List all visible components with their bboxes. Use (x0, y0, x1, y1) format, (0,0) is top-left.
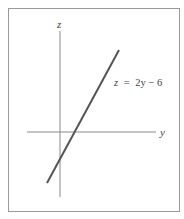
equation-lhs: z (113, 77, 118, 88)
equation-equals: = (124, 77, 130, 88)
graph-line (47, 50, 119, 183)
plot-canvas: z y z = 2y − 6 (0, 0, 184, 219)
y-axis-label: y (159, 126, 165, 138)
z-axis-label: z (56, 18, 62, 30)
equation-label: z = 2y − 6 (113, 77, 162, 88)
equation-rhs: 2y − 6 (135, 77, 162, 88)
